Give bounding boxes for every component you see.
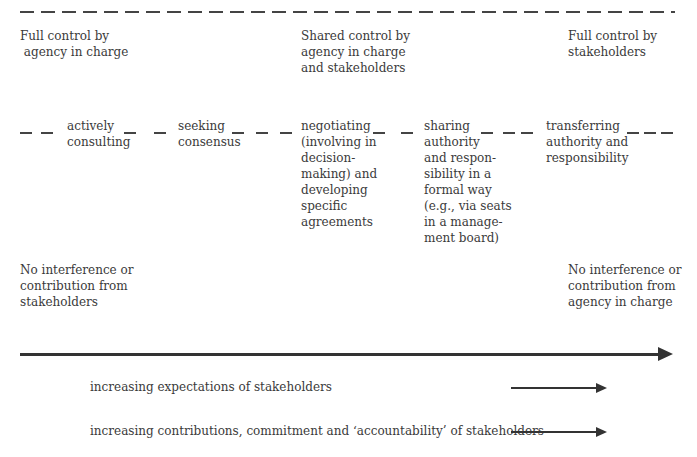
label-full-control-agency: Full control by agency in charge bbox=[20, 28, 128, 60]
connector-dash bbox=[41, 132, 53, 134]
main-axis-arrow-line bbox=[20, 353, 662, 356]
connector-dash bbox=[280, 132, 292, 134]
connector-dash bbox=[661, 132, 673, 134]
top-dashed-line bbox=[20, 11, 675, 13]
connector-dash bbox=[401, 132, 413, 134]
connector-dash bbox=[20, 132, 32, 134]
connector-dash bbox=[644, 132, 656, 134]
main-axis-arrowhead-icon bbox=[658, 347, 673, 361]
label-shared-control: Shared control by agency in charge and s… bbox=[301, 28, 410, 76]
trend-expectations-arrowhead-icon bbox=[596, 383, 607, 393]
trend-expectations-arrow-line bbox=[511, 387, 597, 389]
trend-contributions-arrow-line bbox=[511, 431, 597, 433]
stage-negotiating: negotiating (involving in decision- maki… bbox=[301, 118, 377, 230]
label-full-control-stakeholders: Full control by stakeholders bbox=[568, 28, 657, 60]
trend-contributions-arrowhead-icon bbox=[596, 427, 607, 437]
trend-contributions-label: increasing contributions, commitment and… bbox=[90, 423, 544, 439]
connector-dash bbox=[627, 132, 639, 134]
stage-sharing-authority: sharing authority and respon- sibility i… bbox=[424, 118, 512, 246]
stage-transferring-authority: transferring authority and responsibilit… bbox=[546, 118, 628, 166]
stage-seeking-consensus: seeking consensus bbox=[178, 118, 241, 150]
trend-expectations-label: increasing expectations of stakeholders bbox=[90, 379, 332, 395]
label-no-interference-stakeholders: No interference or contribution from sta… bbox=[20, 262, 133, 310]
connector-dash bbox=[256, 132, 268, 134]
connector-dash bbox=[154, 132, 166, 134]
stage-actively-consulting: actively consulting bbox=[67, 118, 130, 150]
label-no-interference-agency: No interference or contribution from age… bbox=[568, 262, 681, 310]
connector-dash bbox=[521, 132, 533, 134]
